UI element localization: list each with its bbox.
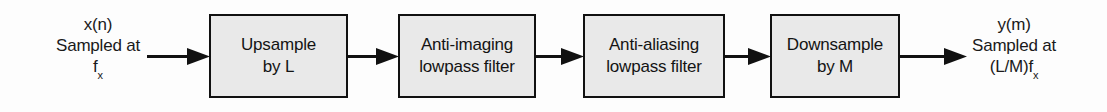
input-sample-rate-subscript: x [98, 69, 103, 81]
output-sample-rate-base: (L/M)f [990, 57, 1033, 76]
output-signal-label: y(m) Sampled at (L/M)fx [928, 14, 1100, 83]
output-sample-rate: (L/M)fx [928, 56, 1100, 83]
block-anti-aliasing-line1: Anti-aliasing [609, 34, 699, 56]
arrow-antialiasing-to-downsample [724, 48, 771, 65]
arrow-antiimaging-to-antialiasing [535, 48, 584, 65]
block-diagram: x(n) Sampled at fx Upsample by L Anti-im… [0, 0, 1107, 112]
block-downsample-line2: by M [817, 56, 853, 78]
block-anti-imaging-line1: Anti-imaging [421, 34, 513, 56]
block-upsample-line1: Upsample [241, 34, 316, 56]
input-sample-rate-base: f [93, 57, 98, 76]
block-upsample-line2: by L [263, 56, 294, 78]
block-anti-imaging-filter[interactable]: Anti-imaging lowpass filter [398, 14, 536, 98]
input-signal-name: x(n) [8, 14, 188, 35]
block-upsample[interactable]: Upsample by L [209, 14, 348, 98]
block-anti-aliasing-filter[interactable]: Anti-aliasing lowpass filter [583, 14, 725, 98]
block-anti-imaging-line2: lowpass filter [419, 56, 514, 78]
output-sampled-at-text: Sampled at [928, 35, 1100, 56]
output-signal-name: y(m) [928, 14, 1100, 35]
block-anti-aliasing-line2: lowpass filter [606, 56, 701, 78]
arrow-input-to-upsample [147, 48, 210, 65]
arrow-upsample-to-antiimaging [347, 48, 399, 65]
output-sample-rate-subscript: x [1033, 69, 1038, 81]
block-downsample[interactable]: Downsample by M [770, 14, 900, 98]
block-downsample-line1: Downsample [787, 34, 883, 56]
